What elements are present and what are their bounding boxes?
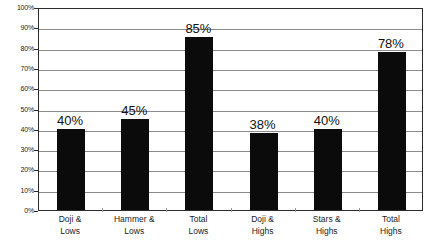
x-axis-tick-separator [295, 208, 296, 212]
bar-value-label: 85% [168, 21, 228, 36]
bar [314, 129, 342, 210]
category-label-line-2: Highs [355, 226, 427, 238]
y-axis-tick-label: 20% [0, 166, 34, 173]
bar-chart: 100%90%80%70%60%50%40%30%20%10%0% 40%45%… [0, 0, 433, 249]
gridline [39, 29, 422, 30]
bar-value-label: 78% [361, 36, 421, 51]
x-axis-tick-separator [102, 208, 103, 212]
category-label-line-2: Lows [34, 226, 106, 238]
category-label-line-2: Lows [98, 226, 170, 238]
y-axis-tick-mark [34, 211, 38, 212]
category-label-line-1: Doji & [59, 214, 82, 224]
y-axis-tick-label: 80% [0, 45, 34, 52]
x-axis-category-label: Doji &Lows [34, 214, 106, 237]
y-axis-tick-label: 40% [0, 126, 34, 133]
bar-value-label: 40% [297, 113, 357, 128]
category-label-line-1: Stars & [313, 214, 341, 224]
x-axis-category-label: TotalHighs [355, 214, 427, 237]
bar [57, 129, 85, 210]
y-axis-tick-label: 0% [0, 207, 34, 214]
category-label-line-1: Doji & [251, 214, 274, 224]
y-axis-tick-label: 60% [0, 85, 34, 92]
bar [378, 52, 406, 210]
y-axis-tick-label: 90% [0, 24, 34, 31]
category-label-line-1: Total [382, 214, 400, 224]
x-axis-tick-separator [166, 208, 167, 212]
x-axis-category-label: Doji &Highs [227, 214, 299, 237]
bar-value-label: 38% [233, 117, 293, 132]
bar-value-label: 40% [40, 113, 100, 128]
bar-value-label: 45% [104, 103, 164, 118]
y-axis-tick-label: 30% [0, 146, 34, 153]
bar [121, 119, 149, 210]
bar [250, 133, 278, 210]
category-label-line-1: Total [189, 214, 207, 224]
category-label-line-2: Lows [162, 226, 234, 238]
x-axis-category-label: TotalLows [162, 214, 234, 237]
category-label-line-2: Highs [227, 226, 299, 238]
gridline [39, 131, 422, 132]
gridline [39, 111, 422, 112]
x-axis-category-label: Stars &Highs [291, 214, 363, 237]
y-axis-tick-label: 100% [0, 4, 34, 11]
x-axis-category-label: Hammer &Lows [98, 214, 170, 237]
y-axis-tick-label: 50% [0, 106, 34, 113]
gridline [39, 90, 422, 91]
gridline [39, 192, 422, 193]
gridline [39, 70, 422, 71]
y-axis-tick-label: 70% [0, 65, 34, 72]
y-axis-tick-label: 10% [0, 187, 34, 194]
x-axis-tick-separator [359, 208, 360, 212]
gridline [39, 151, 422, 152]
bar [185, 37, 213, 210]
category-label-line-2: Highs [291, 226, 363, 238]
gridline [39, 171, 422, 172]
category-label-line-1: Hammer & [114, 214, 155, 224]
x-axis-tick-separator [231, 208, 232, 212]
